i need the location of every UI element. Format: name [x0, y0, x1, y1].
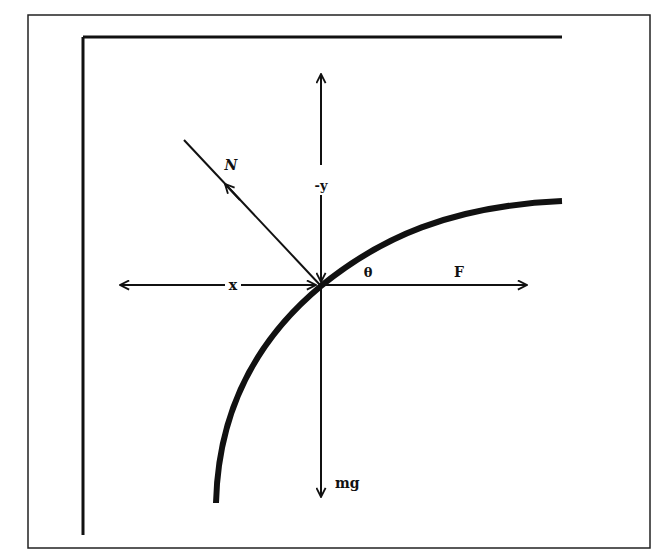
free-body-diagram: -y mg x F θ N: [0, 0, 664, 560]
angle-label: θ: [364, 265, 373, 280]
normal-force-arrow: [225, 184, 240, 200]
x-label: x: [229, 277, 238, 293]
neg-y-label: -y: [315, 178, 328, 193]
curved-surface: [216, 201, 562, 503]
normal-force-line: [184, 140, 321, 286]
outer-frame: [28, 15, 650, 548]
weight-label: mg: [335, 475, 360, 491]
normal-force-label: N: [224, 157, 239, 173]
applied-force-label: F: [454, 264, 464, 280]
